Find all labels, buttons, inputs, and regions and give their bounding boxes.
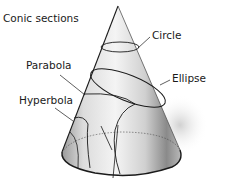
parabola-label: Parabola: [26, 60, 72, 71]
circle-label: Circle: [152, 30, 182, 41]
ellipse-label: Ellipse: [172, 73, 206, 84]
conic-sections-diagram: Conic sections Circle Parabola Ellipse H…: [0, 0, 230, 182]
cone-illustration: [0, 0, 230, 182]
hyperbola-label: Hyperbola: [19, 95, 73, 106]
diagram-title: Conic sections: [3, 13, 79, 24]
circle-leader: [138, 37, 150, 48]
parabola-leader: [60, 75, 85, 95]
ellipse-leader: [160, 80, 170, 85]
hyperbola-leader: [55, 108, 73, 121]
